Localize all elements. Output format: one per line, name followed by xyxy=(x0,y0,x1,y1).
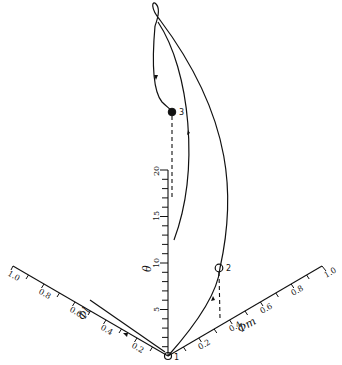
arrow-icon xyxy=(211,296,215,301)
theta-tick-5: 5 xyxy=(152,307,161,312)
projection-point-2 xyxy=(219,272,220,318)
outer-trajectory xyxy=(160,20,228,356)
point-1-label: 1 xyxy=(174,353,179,362)
theta-axis-ticks xyxy=(160,170,168,347)
phi-left-axis: 0.2 0.4 0.6 0.8 1.0 Φl xyxy=(6,266,168,356)
theta-axis: 5 10 15 20 θ xyxy=(141,166,168,356)
theta-axis-label: θ xyxy=(141,265,154,272)
point-2-label: 2 xyxy=(226,264,231,273)
point-2: 2 xyxy=(215,264,231,273)
phi-right-tick-0.6: 0.6 xyxy=(259,302,275,316)
phi-right-axis: 0.2 0.4 0.6 0.8 1.0 Φm xyxy=(168,266,338,356)
trajectory-diagram: 5 10 15 20 θ 0.2 0.4 0.6 0.8 1.0 Φl xyxy=(0,0,342,365)
phi-left-tick-0.8: 0.8 xyxy=(37,287,53,301)
theta-tick-15: 15 xyxy=(152,211,161,221)
phi-right-axis-label: Φm xyxy=(235,315,258,336)
phi-right-tick-1.0: 1.0 xyxy=(323,266,339,280)
arrow-icon xyxy=(123,333,128,337)
theta-tick-20: 20 xyxy=(152,166,161,176)
descending-branch xyxy=(153,26,172,112)
point-3-label: 3 xyxy=(179,108,184,117)
phi-left-tick-0.2: 0.2 xyxy=(130,341,146,355)
phi-left-tick-1.0: 1.0 xyxy=(6,269,22,283)
trajectory-curves xyxy=(90,3,228,356)
phi-right-tick-0.2: 0.2 xyxy=(197,338,213,352)
point-3: 3 xyxy=(168,108,184,117)
phi-left-tick-0.4: 0.4 xyxy=(99,323,115,337)
